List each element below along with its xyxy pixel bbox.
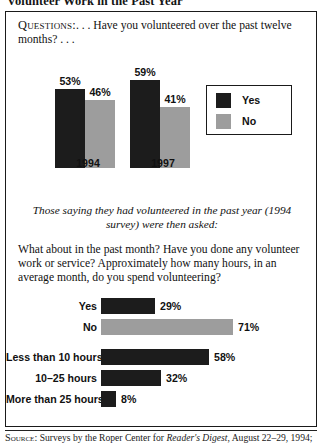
chart-legend: Yes No	[206, 85, 292, 135]
bar-value-1994-no: 46%	[85, 86, 115, 98]
legend-swatch-yes	[216, 93, 231, 108]
source-text-before: Surveys by the Roper Center for	[37, 432, 166, 443]
bar-value-1997-yes: 59%	[130, 66, 160, 78]
grouped-bar-chart: 53% 46% 1994 59% 41% 1997 Yes No	[6, 60, 318, 182]
bar-label: Less than 10 hours	[6, 351, 97, 363]
source-divider	[5, 430, 317, 431]
bar-value-1997-no: 41%	[160, 93, 190, 105]
source-publication: Reader's Digest	[166, 432, 227, 443]
lead-in-text: Those saying they had volunteered in the…	[22, 204, 302, 231]
source-note: Source: Surveys by the Roper Center for …	[5, 432, 322, 443]
source-text-after: , August 22–29, 1994;	[227, 432, 312, 443]
page-title: Volunteer Work in the Past Year	[7, 0, 183, 9]
questions-block: Questions:. . . Have you volunteered ove…	[18, 18, 308, 47]
questions-label: Questions:	[18, 18, 76, 32]
horizontal-bar-chart-month: Yes29%No71%	[6, 298, 318, 338]
horizontal-bar-chart-hours: Less than 10 hours58%10–25 hours32%More …	[6, 349, 318, 419]
bar-label: Yes	[6, 300, 97, 312]
bar-label: No	[6, 321, 97, 333]
bar-category-1994: 1994	[51, 157, 125, 169]
bar-row: 10–25 hours32%	[6, 370, 318, 386]
bar-value: 8%	[121, 393, 136, 405]
legend-swatch-no	[216, 114, 231, 129]
chart-panel: Questions:. . . Have you volunteered ove…	[5, 11, 317, 427]
bar-fill	[101, 391, 116, 407]
bar-1997-yes	[130, 80, 160, 168]
bar-value: 32%	[166, 372, 187, 384]
bar-fill	[101, 319, 233, 335]
bar-row: No71%	[6, 319, 318, 335]
bar-fill	[101, 349, 209, 365]
bar-value: 58%	[214, 351, 235, 363]
bar-row: Yes29%	[6, 298, 318, 314]
bar-fill	[101, 370, 161, 386]
bar-fill	[101, 298, 155, 314]
legend-label-no: No	[242, 115, 256, 127]
bar-category-1997: 1997	[126, 157, 200, 169]
bar-value: 29%	[160, 300, 181, 312]
bar-label: 10–25 hours	[6, 372, 97, 384]
bar-row: More than 25 hours8%	[6, 391, 318, 407]
followup-question-text: What about in the past month? Have you d…	[18, 243, 310, 286]
legend-label-yes: Yes	[242, 94, 260, 106]
source-label: Source:	[5, 432, 37, 443]
bar-value-1994-yes: 53%	[55, 75, 85, 87]
bar-label: More than 25 hours	[6, 393, 97, 405]
bar-row: Less than 10 hours58%	[6, 349, 318, 365]
bar-value: 71%	[238, 321, 259, 333]
